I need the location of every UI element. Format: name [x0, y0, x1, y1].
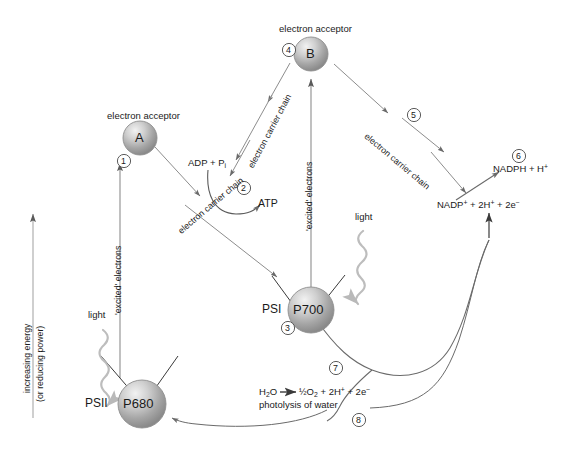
nadp-text: NADP	[437, 199, 463, 210]
nadph-text: NADPH + H	[493, 163, 544, 174]
arrow-b-to-carrier-chain-right-1	[334, 64, 388, 113]
step-number-7: 7	[333, 363, 338, 373]
label-atp: ATP	[258, 197, 278, 209]
nadp-rest: + 2H	[467, 199, 490, 210]
caption-electron-acceptor-a: electron acceptor	[107, 111, 180, 122]
label-adp-pi: ADP + Pi	[188, 158, 226, 170]
water-o: O	[270, 386, 277, 397]
label-nadph-product: NADPH + H+	[493, 163, 548, 175]
arrow-carrier-chain-right-2	[402, 118, 444, 152]
curve-step8-to-p680	[172, 410, 327, 426]
e-minus-sup: −	[516, 199, 520, 206]
plus-2h: + 2H	[318, 386, 341, 397]
nadph-h-plus-sup: +	[544, 163, 548, 170]
axis-label-reducing-power: (or reducing power)	[35, 326, 45, 402]
arrow-carrier-chain-to-nadp	[431, 152, 466, 193]
axis-label-increasing-energy: increasing energy	[22, 324, 32, 393]
label-photolysis-of-water: photolysis of water	[259, 400, 338, 411]
nadp-tail: + 2e	[494, 199, 515, 210]
step-number-8: 8	[356, 415, 361, 425]
sphere-label-a: A	[135, 130, 144, 145]
step-number-2: 2	[241, 183, 246, 193]
curve-photolysis-electrons-to-nadp	[370, 240, 489, 408]
light-wave-psii	[100, 330, 110, 406]
e-minus-sup-2: −	[366, 386, 370, 393]
curve-main-s	[315, 240, 489, 375]
oxygen-o: O	[307, 386, 314, 397]
step-number-6: 6	[516, 151, 521, 161]
sphere-label-p700: P700	[293, 302, 323, 317]
arrow-nadp-to-nadph	[456, 172, 499, 200]
adp-pi-subscript: i	[225, 162, 227, 169]
label-nadp-reactants: NADP+ + 2H+ + 2e−	[437, 199, 520, 211]
arrow-carrier-chain-to-atp-junction	[230, 140, 250, 176]
step-number-5: 5	[411, 110, 416, 120]
label-excited-electrons-right: 'excited' electrons	[304, 162, 314, 231]
light-wave-psi	[356, 231, 367, 304]
label-light-psi: light	[355, 212, 372, 223]
arrow-a-to-carrier-chain	[155, 147, 200, 196]
photosynthesis-z-scheme-diagram: increasing energy (or reducing power) el…	[0, 0, 574, 456]
step-number-4: 4	[286, 45, 291, 55]
plus-2e: + 2e	[345, 386, 366, 397]
label-light-psii: light	[88, 310, 105, 321]
curve-p700-sweep	[320, 232, 489, 355]
step-number-3: 3	[285, 323, 290, 333]
adp-pi-text: ADP + P	[188, 157, 225, 168]
step-number-1: 1	[121, 156, 126, 166]
label-psii: PSII	[85, 397, 108, 411]
label-psi: PSI	[262, 303, 281, 317]
label-excited-electrons-left: 'excited' electrons	[113, 246, 123, 315]
label-photolysis-equation: H2O½O2 + 2H+ + 2e−	[259, 386, 370, 398]
sphere-label-b: B	[306, 46, 315, 61]
caption-electron-acceptor-b: electron acceptor	[279, 24, 352, 35]
sphere-label-p680: P680	[123, 396, 153, 411]
water-h: H	[259, 386, 266, 397]
half-fraction: ½	[299, 387, 307, 397]
